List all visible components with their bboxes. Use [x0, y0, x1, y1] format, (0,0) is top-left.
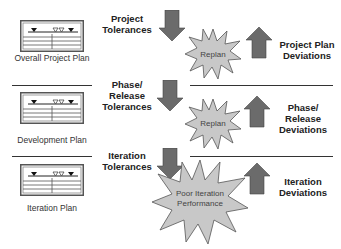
- gantt-plan-icon: [20, 20, 84, 52]
- arrow-down-icon: [156, 80, 184, 112]
- plan-label: Iteration Plan: [7, 203, 97, 213]
- separator-left-2: [12, 156, 92, 157]
- arrow-down-icon: [158, 10, 186, 42]
- deviation-label: Iteration Deviations: [268, 176, 338, 198]
- separator-right-2: [190, 156, 333, 157]
- deviation-label: Phase/ Release Deviations: [268, 102, 338, 135]
- burst-label: Replan: [193, 50, 233, 60]
- arrow-up-icon: [243, 163, 271, 195]
- arrow-up-icon: [243, 96, 271, 128]
- separator-right-1: [190, 85, 333, 86]
- plan-label: Development Plan: [7, 135, 97, 145]
- gantt-plan-icon: [20, 164, 84, 196]
- burst-label: Replan: [193, 119, 233, 129]
- gantt-plan-icon: [20, 92, 84, 124]
- deviation-label: Project Plan Deviations: [272, 39, 341, 61]
- separator-left-1: [12, 85, 92, 86]
- arrow-up-icon: [245, 27, 273, 59]
- burst-label: Poor Iteration Performance: [165, 189, 235, 209]
- plan-label: Overall Project Plan: [7, 53, 97, 63]
- tolerance-label: Phase/ Release Tolerances: [92, 79, 162, 112]
- tolerance-label: Project Tolerances: [92, 13, 162, 35]
